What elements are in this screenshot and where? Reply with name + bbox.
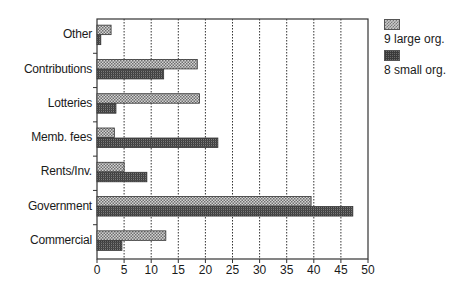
- bar-large-org: [97, 231, 166, 241]
- bar-small-org: [97, 35, 101, 45]
- x-tick-label: 5: [121, 263, 128, 277]
- bar-large-org: [97, 162, 124, 172]
- x-tick-label: 35: [280, 263, 294, 277]
- x-tick-label: 15: [172, 263, 186, 277]
- legend: 9 large org. 8 small org.: [384, 19, 468, 81]
- category-label: Contributions: [24, 62, 92, 76]
- category-label: Government: [28, 199, 93, 213]
- x-tick-label: 50: [361, 263, 375, 277]
- legend-item-large: 9 large org.: [384, 19, 468, 46]
- x-tick-label: 10: [145, 263, 159, 277]
- x-tick-label: 0: [94, 263, 101, 277]
- x-tick-label: 25: [226, 263, 240, 277]
- category-label: Rents/Inv.: [41, 164, 92, 178]
- legend-swatch-large: [384, 19, 400, 30]
- x-tick-label: 20: [199, 263, 213, 277]
- bar-small-org: [97, 207, 353, 217]
- bar-large-org: [97, 25, 111, 35]
- legend-label: 9 large org.: [384, 32, 468, 46]
- bars: [97, 25, 353, 250]
- bar-small-org: [97, 69, 164, 79]
- category-label: Lotteries: [48, 96, 92, 110]
- legend-item-small: 8 small org.: [384, 50, 468, 77]
- x-axis-ticks: 05101520253035404550: [94, 259, 375, 277]
- bar-small-org: [97, 172, 147, 182]
- legend-label: 8 small org.: [384, 63, 468, 77]
- bar-large-org: [97, 59, 197, 69]
- x-tick-label: 45: [334, 263, 348, 277]
- bar-large-org: [97, 128, 114, 138]
- bar-small-org: [97, 241, 122, 251]
- bar-small-org: [97, 138, 218, 148]
- bar-large-org: [97, 94, 199, 104]
- category-label: Commercial: [30, 233, 92, 247]
- category-label: Memb. fees: [31, 130, 92, 144]
- x-tick-label: 30: [253, 263, 267, 277]
- x-tick-label: 40: [307, 263, 321, 277]
- bar-small-org: [97, 104, 116, 114]
- bar-large-org: [97, 197, 311, 207]
- category-labels: OtherContributionsLotteriesMemb. feesRen…: [24, 27, 93, 247]
- legend-swatch-small: [384, 50, 400, 61]
- category-label: Other: [63, 27, 92, 41]
